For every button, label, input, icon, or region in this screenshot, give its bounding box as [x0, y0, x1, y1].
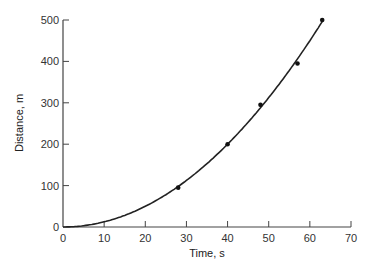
fitted-curve — [63, 22, 322, 227]
y-tick-label: 100 — [41, 180, 59, 192]
x-tick-label: 30 — [180, 232, 192, 244]
chart: 0102030405060700100200300400500 Time, s … — [0, 0, 373, 272]
y-tick-label: 400 — [41, 55, 59, 67]
data-point — [295, 61, 300, 66]
x-tick-label: 50 — [263, 232, 275, 244]
x-tick-label: 40 — [221, 232, 233, 244]
data-points — [176, 18, 325, 190]
y-tick-label: 500 — [41, 14, 59, 26]
data-point — [320, 18, 325, 23]
x-tick-label: 70 — [345, 232, 357, 244]
x-tick-label: 20 — [139, 232, 151, 244]
y-axis-label: Distance, m — [13, 94, 25, 152]
data-point — [176, 185, 181, 190]
curve-path — [63, 22, 322, 227]
x-tick-label: 0 — [60, 232, 66, 244]
y-tick-label: 0 — [53, 221, 59, 233]
y-tick-label: 200 — [41, 138, 59, 150]
data-point — [225, 142, 230, 147]
x-axis-label: Time, s — [189, 247, 225, 259]
x-tick-label: 60 — [304, 232, 316, 244]
axes: 0102030405060700100200300400500 — [41, 14, 357, 244]
data-point — [258, 103, 263, 108]
y-tick-label: 300 — [41, 97, 59, 109]
x-tick-label: 10 — [98, 232, 110, 244]
